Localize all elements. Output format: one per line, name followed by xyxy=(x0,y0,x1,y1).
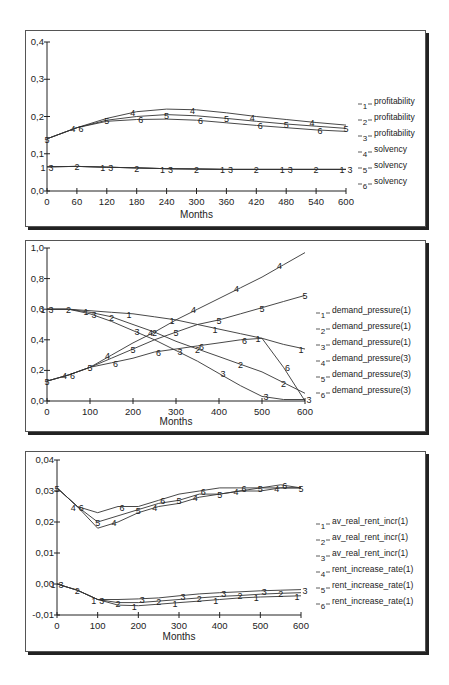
svg-text:av_real_rent_incr(1): av_real_rent_incr(1) xyxy=(332,548,408,558)
y-tick-label: 0,03 xyxy=(36,485,55,496)
y-tick-label: 0,4 xyxy=(31,36,44,47)
svg-text:2: 2 xyxy=(321,538,326,547)
svg-text:5: 5 xyxy=(321,586,326,595)
series-marker: 6 xyxy=(160,496,165,506)
series-marker: 5 xyxy=(176,496,181,506)
series-marker: 2 xyxy=(66,305,71,315)
svg-text:av_real_rent_incr(1): av_real_rent_incr(1) xyxy=(332,516,408,526)
svg-text:2: 2 xyxy=(363,118,368,127)
series-marker: 5 xyxy=(173,328,178,338)
series-marker: 3 xyxy=(228,165,233,175)
svg-text:profitability: profitability xyxy=(374,96,415,106)
y-tick-label: 0,2 xyxy=(31,364,44,375)
series-line-2 xyxy=(47,309,305,393)
y-tick-label: 1,0 xyxy=(31,242,44,253)
series-marker: 5 xyxy=(259,304,264,314)
series-line-4 xyxy=(47,253,305,382)
chart-3-svg: -0,010,000,010,020,030,04010020030040050… xyxy=(26,452,425,651)
series-marker: 2 xyxy=(254,165,259,175)
svg-text:4: 4 xyxy=(363,150,368,159)
series-marker: 6 xyxy=(285,363,290,373)
series-marker: 3 xyxy=(221,589,226,599)
series-marker: 5 xyxy=(217,490,222,500)
series-marker: 3 xyxy=(263,392,268,402)
svg-text:3: 3 xyxy=(363,134,368,143)
svg-text:demand_pressure(1): demand_pressure(1) xyxy=(332,321,411,331)
series-marker: 1 xyxy=(126,310,131,320)
y-tick-label: -0,01 xyxy=(32,609,54,620)
svg-text:1: 1 xyxy=(321,311,326,320)
y-tick-label: 0,1 xyxy=(31,148,44,159)
series-marker: 6 xyxy=(241,484,246,494)
series-marker: 6 xyxy=(78,124,83,134)
series-marker: 3 xyxy=(91,310,96,320)
series-marker: 3 xyxy=(288,165,293,175)
x-tick-label: 600 xyxy=(338,196,354,207)
x-tick-label: 200 xyxy=(130,620,146,631)
legend-item-6: 6solvency xyxy=(358,176,408,191)
series-marker: 4 xyxy=(148,328,153,338)
svg-text:3: 3 xyxy=(321,343,326,352)
series-marker: 5 xyxy=(343,124,348,134)
series-marker: 1 xyxy=(160,165,165,175)
svg-text:demand_pressure(3): demand_pressure(3) xyxy=(332,369,411,379)
svg-text:5: 5 xyxy=(363,166,368,175)
series-marker: 2 xyxy=(314,165,319,175)
series-marker: 1 xyxy=(255,334,260,344)
legend-item-5: 5solvency xyxy=(358,160,408,175)
series-marker: 3 xyxy=(180,592,185,602)
series-marker: 6 xyxy=(199,342,204,352)
svg-text:4: 4 xyxy=(321,570,326,579)
legend-item-5: 5demand_pressure(3) xyxy=(316,369,411,384)
x-tick-label: 600 xyxy=(293,620,309,631)
y-tick-label: 0,8 xyxy=(31,273,44,284)
series-marker: 2 xyxy=(156,597,161,607)
svg-text:4: 4 xyxy=(321,359,326,368)
series-marker: 4 xyxy=(191,305,196,315)
x-axis-label: Months xyxy=(180,209,213,220)
series-marker: 3 xyxy=(220,369,225,379)
series-marker: 1 xyxy=(212,325,217,335)
series-marker: 3 xyxy=(262,587,267,597)
y-tick-label: 0,3 xyxy=(31,73,44,84)
legend-item-4: 4demand_pressure(3) xyxy=(316,353,411,368)
series-marker: 5 xyxy=(298,484,303,494)
chart-2-svg: 0,00,20,40,60,81,00100200300400500600Mon… xyxy=(26,241,425,431)
series-marker: 4 xyxy=(130,108,135,118)
y-tick-label: 0,01 xyxy=(36,547,55,558)
series-line-5 xyxy=(47,115,346,139)
series-marker: 6 xyxy=(70,371,75,381)
series-marker: 6 xyxy=(201,487,206,497)
svg-text:3: 3 xyxy=(321,554,326,563)
series-marker: 1 xyxy=(40,305,45,315)
y-tick-label: 0,0 xyxy=(31,185,44,196)
svg-text:solvency: solvency xyxy=(374,176,408,186)
series-marker: 6 xyxy=(79,503,84,513)
series-marker: 2 xyxy=(281,379,286,389)
series-marker: 6 xyxy=(198,116,203,126)
x-tick-label: 180 xyxy=(129,196,145,207)
legend-item-2: 2av_real_rent_incr(1) xyxy=(316,532,408,547)
series-marker: 6 xyxy=(282,481,287,491)
series-marker: 2 xyxy=(74,162,79,172)
svg-text:2: 2 xyxy=(321,327,326,336)
series-marker: 5 xyxy=(136,506,141,516)
series-marker: 2 xyxy=(197,594,202,604)
svg-text:6: 6 xyxy=(363,182,368,191)
series-marker: 6 xyxy=(156,348,161,358)
series-marker: 1 xyxy=(280,165,285,175)
chart-panel-demand-pressure: 0,00,20,40,60,81,00100200300400500600Mon… xyxy=(25,240,426,432)
series-marker: 3 xyxy=(48,305,53,315)
legend-item-4: 4rent_increase_rate(1) xyxy=(316,564,413,579)
series-marker: 6 xyxy=(318,126,323,136)
series-marker: 3 xyxy=(48,163,53,173)
x-tick-label: 0 xyxy=(44,406,49,417)
legend-item-1: 1demand_pressure(1) xyxy=(316,305,411,320)
series-marker: 6 xyxy=(258,121,263,131)
series-marker: 2 xyxy=(238,360,243,370)
legend-item-6: 6rent_increase_rate(1) xyxy=(316,596,413,611)
x-tick-label: 120 xyxy=(99,196,115,207)
svg-text:profitability: profitability xyxy=(374,128,415,138)
series-marker: 5 xyxy=(258,484,263,494)
legend-item-1: 1profitability xyxy=(358,96,415,111)
